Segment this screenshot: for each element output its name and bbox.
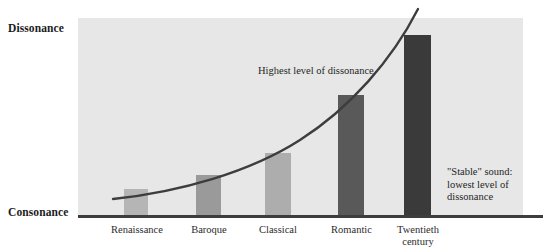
x-tick-label-baroque: Baroque [178, 224, 240, 236]
x-tick-label-romantic: Romantic [320, 224, 383, 236]
bar-baroque [196, 175, 221, 215]
annotation-highest-dissonance: Highest level of dissonance [258, 65, 374, 78]
annotation-stable-sound: "Stable" sound: lowest level of dissonan… [447, 166, 539, 204]
x-tick-label-twentieth-century: Twentieth century [385, 224, 451, 247]
dissonance-chart-figure: Dissonance Consonance Renaissance Baroqu… [0, 0, 543, 252]
y-axis-top-label: Dissonance [8, 22, 64, 34]
bar-twentieth-century [404, 35, 431, 215]
y-axis-bottom-label: Consonance [8, 206, 68, 218]
bar-renaissance [124, 189, 148, 215]
bar-romantic [338, 95, 364, 215]
bar-classical [265, 153, 291, 215]
x-tick-label-classical: Classical [246, 224, 310, 236]
x-axis-line [78, 215, 543, 218]
x-tick-label-renaissance: Renaissance [103, 224, 171, 236]
